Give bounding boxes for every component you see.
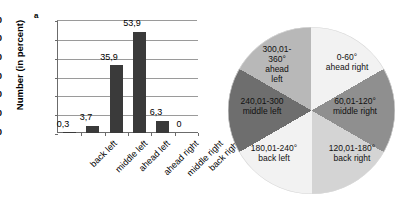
panel-a-label: a [34,12,38,20]
pie-label-back-left: 180,01-240° back left [233,143,315,163]
y-tick-label-40: 40 [0,53,2,62]
y-tick-mark-40 [55,59,58,60]
bar-middle-left [86,126,99,133]
y-tick-label-10: 10 [0,109,2,118]
panel-b-pie-chart: b 0-60° ahead right 60,01-120° middle ri [205,0,407,205]
figure-container: a Number (in percent) 60 50 40 30 20 10 … [0,0,407,205]
bar-back-left [63,132,76,133]
y-tick-mark-10 [55,115,58,116]
y-tick-label-50: 50 [0,34,2,43]
x-tick-mark-2 [105,133,106,136]
pie-label-middle-left: 240,01-300 middle left [221,96,303,116]
y-tick-mark-0 [55,134,58,135]
y-tick-mark-30 [55,78,58,79]
x-tick-mark-4 [151,133,152,136]
bar-value-ahead-right: 53,9 [115,19,149,28]
y-tick-label-0: 0 [0,128,2,137]
gridline-50 [58,40,198,41]
bar-value-ahead-left: 35,9 [92,53,126,62]
pie-label-ahead-right: 0-60° ahead right [312,52,382,72]
pie-label-ahead-left: 300,01- 360° ahead left [253,44,301,84]
gridline-20 [58,96,198,97]
y-axis-title: Number (in percent) [15,10,25,120]
x-tick-mark-1 [81,133,82,136]
bar-value-middle-left: 3,7 [69,113,103,122]
x-tick-mark-6 [198,133,199,136]
x-tick-mark-5 [175,133,176,136]
gridline-30 [58,78,198,79]
panel-a-bar-chart: a Number (in percent) 60 50 40 30 20 10 … [0,0,205,205]
bar-value-middle-right: 6,3 [139,108,173,117]
y-tick-label-60: 60 [0,16,2,25]
x-tick-mark-3 [128,133,129,136]
y-tick-label-20: 20 [0,90,2,99]
pie-label-middle-right: 60,01-120° middle right [315,96,395,116]
y-tick-mark-20 [55,96,58,97]
gridline-40 [58,59,198,60]
y-tick-label-30: 30 [0,72,2,81]
bar-ahead-left [110,65,123,133]
bar-value-back-right: 0 [162,120,196,129]
y-tick-mark-50 [55,40,58,41]
bar-ahead-right [133,32,146,134]
pie-label-back-right: 120,01-180° back right [313,143,391,163]
y-tick-mark-60 [55,21,58,22]
